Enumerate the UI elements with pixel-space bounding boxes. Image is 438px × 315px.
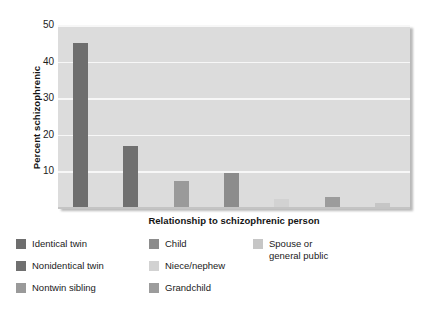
legend-swatch-icon [149,283,159,293]
legend-column-2: ChildNiece/nephewGrandchild [149,238,225,304]
legend-item-label: Niece/nephew [165,260,225,272]
y-axis-tick-label: 40 [20,57,54,67]
y-axis-tick-label: 50 [20,20,54,30]
legend-item[interactable]: Niece/nephew [149,260,225,273]
legend-column-3: Spouse or general public [253,238,328,260]
legend-item[interactable]: Identical twin [16,238,104,251]
x-axis-baseline [58,207,410,209]
legend-item[interactable]: Nonidentical twin [16,260,104,273]
chart-legend: Identical twinNonidentical twinNontwin s… [16,238,426,308]
legend-item[interactable]: Spouse or general public [253,238,328,251]
plot-area [58,25,410,208]
legend-swatch-icon [16,239,26,249]
bar-chart-figure: Percent schizophrenic 1020304050 Relatio… [0,0,438,315]
legend-item-label: Grandchild [165,282,211,294]
legend-column-1: Identical twinNonidentical twinNontwin s… [16,238,104,304]
legend-item[interactable]: Child [149,238,225,251]
y-axis-tick-label: 10 [20,166,54,176]
bar [224,173,239,208]
legend-item-label: Child [165,238,187,250]
y-axis-tick-label: 20 [20,130,54,140]
legend-item[interactable]: Grandchild [149,282,225,295]
bar [174,181,189,208]
legend-swatch-icon [16,261,26,271]
x-axis-title: Relationship to schizophrenic person [58,215,410,226]
bars-layer [58,25,410,208]
legend-item-label: Nonidentical twin [32,260,104,272]
legend-swatch-icon [253,239,263,249]
legend-swatch-icon [149,261,159,271]
y-axis-tick-label: 30 [20,93,54,103]
bar [73,43,88,208]
legend-item-label: Spouse or general public [269,238,328,261]
legend-item-label: Nontwin sibling [32,282,96,294]
legend-swatch-icon [16,283,26,293]
legend-item-label: Identical twin [32,238,87,250]
y-axis-tick-labels: 1020304050 [20,0,54,215]
bar [123,146,138,208]
legend-swatch-icon [149,239,159,249]
legend-item[interactable]: Nontwin sibling [16,282,104,295]
